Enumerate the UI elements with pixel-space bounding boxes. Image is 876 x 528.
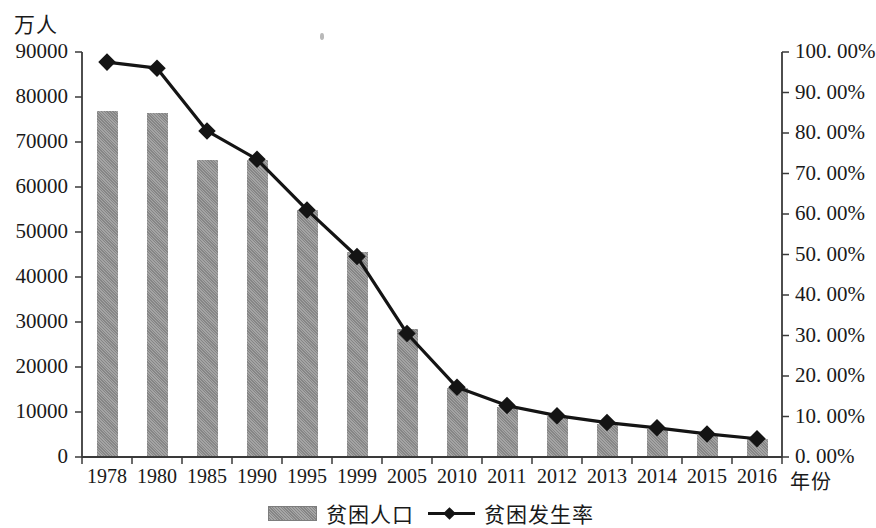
legend-item-line: 贫困发生率 xyxy=(428,498,594,528)
y-axis-left-tick-label: 60000 xyxy=(0,176,68,197)
line-marker-2011 xyxy=(498,397,516,415)
y-axis-left-tick-label: 70000 xyxy=(0,131,68,152)
y-axis-left-tick-label: 20000 xyxy=(0,356,68,377)
y-axis-left-tick-label: 40000 xyxy=(0,266,68,287)
y-axis-right-tick-label: 40. 00% xyxy=(795,284,865,305)
poverty-rate-line xyxy=(107,62,757,439)
y-axis-left-tick-label: 0 xyxy=(0,446,68,467)
x-axis-tick-label: 2016 xyxy=(727,466,787,486)
y-axis-right-tick-label: 90. 00% xyxy=(795,82,865,103)
legend-item-bar: 贫困人口 xyxy=(268,498,414,528)
y-axis-left-tick-label: 90000 xyxy=(0,41,68,62)
y-axis-right-tick-label: 0. 00% xyxy=(795,446,855,467)
line-marker-2013 xyxy=(598,414,616,432)
y-axis-right-tick-label: 50. 00% xyxy=(795,244,865,265)
y-axis-right-tick-label: 100. 00% xyxy=(795,41,876,62)
y-axis-left-tick-label: 80000 xyxy=(0,86,68,107)
legend-label-bar: 贫困人口 xyxy=(326,498,414,528)
bar-swatch-icon xyxy=(268,506,317,521)
y-axis-right-tick-label: 80. 00% xyxy=(795,122,865,143)
y-axis-right-tick-label: 60. 00% xyxy=(795,203,865,224)
y-axis-right-tick-label: 20. 00% xyxy=(795,365,865,386)
y-axis-right-tick-label: 70. 00% xyxy=(795,163,865,184)
y-axis-left-tick-label: 10000 xyxy=(0,401,68,422)
line-marker-1978 xyxy=(98,53,116,71)
line-diamond-swatch-icon xyxy=(428,507,475,520)
line-marker-2014 xyxy=(648,419,666,437)
y-axis-left-tick-label: 50000 xyxy=(0,221,68,242)
line-marker-2012 xyxy=(548,407,566,425)
legend-label-line: 贫困发生率 xyxy=(484,498,594,528)
y-axis-left-tick-label: 30000 xyxy=(0,311,68,332)
y-axis-right-tick-label: 10. 00% xyxy=(795,406,865,427)
y-axis-right-tick-label: 30. 00% xyxy=(795,325,865,346)
line-marker-2016 xyxy=(748,430,766,448)
chart-legend: 贫困人口 贫困发生率 xyxy=(0,498,862,528)
line-marker-2015 xyxy=(698,425,716,443)
scan-artifact-speck xyxy=(320,33,324,40)
